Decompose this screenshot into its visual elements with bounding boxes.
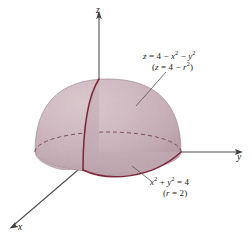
surface-equation-label: z = 4 − x2 − y2 (z = 4 − r2) [143,51,196,74]
solid-of-revolution-drawing [0,0,252,236]
base-circle-equation-label: x2 + y2 = 4 (r = 2) [150,177,189,200]
base-circle-equation-alt: (r = 2) [150,188,189,199]
x-axis-label: x [18,222,22,232]
y-axis-label: y [237,152,241,162]
surface-equation-alt: (z = 4 − r2) [143,62,196,73]
z-axis-label: z [96,5,100,15]
base-circle-equation-main: x2 + y2 = 4 [150,177,189,188]
figure-container: z = 4 − x2 − y2 (z = 4 − r2) x2 + y2 = 4… [0,0,252,236]
